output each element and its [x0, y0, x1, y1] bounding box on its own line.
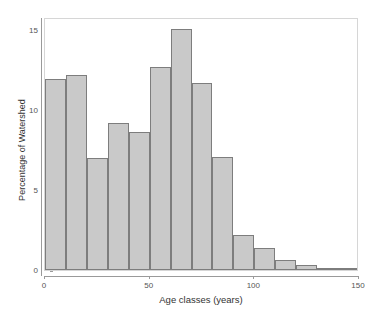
y-tick-label: 10 [18, 107, 38, 115]
x-axis-title: Age classes (years) [44, 294, 358, 305]
histogram-bar [129, 132, 150, 271]
plot-panel [44, 18, 358, 271]
y-axis-ticks: 051015 [12, 0, 38, 317]
histogram-bar [212, 157, 233, 270]
y-tick-label: 5 [18, 187, 38, 195]
x-tick-mark [149, 276, 150, 279]
x-tick-label: 0 [29, 281, 59, 291]
histogram-bar [66, 75, 87, 270]
x-axis-line [44, 276, 358, 277]
x-tick-label: 50 [134, 281, 164, 291]
histogram-bar [171, 29, 192, 270]
histogram-bar [150, 67, 171, 270]
histogram-bar [233, 235, 254, 270]
y-tick-mark [50, 271, 53, 272]
histogram-bar [275, 260, 296, 270]
x-tick-mark [358, 276, 359, 279]
y-tick-label: 15 [18, 27, 38, 35]
histogram-bar [254, 248, 275, 270]
x-tick-label: 100 [238, 281, 268, 291]
histogram-bar [338, 268, 358, 270]
y-axis-line [41, 18, 42, 276]
x-tick-mark [253, 276, 254, 279]
x-tick-mark [44, 276, 45, 279]
histogram-bar [296, 265, 317, 270]
histogram-bar [87, 158, 108, 270]
y-tick-label: 0 [18, 267, 38, 275]
histogram-bar [192, 83, 213, 270]
histogram-bar [45, 79, 66, 270]
histogram-bar [317, 268, 338, 270]
x-tick-label: 150 [343, 281, 369, 291]
histogram-bars [45, 19, 357, 270]
histogram-bar [108, 123, 129, 270]
